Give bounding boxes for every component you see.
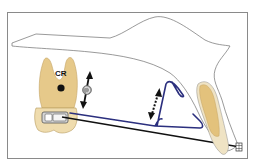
rotation-symbol [83,86,92,95]
cr-label: CR [55,69,67,78]
diagram-canvas: CR [0,0,257,167]
incisor-bracket [236,143,242,151]
center-of-resistance-dot [57,84,64,91]
incisor [197,82,229,155]
